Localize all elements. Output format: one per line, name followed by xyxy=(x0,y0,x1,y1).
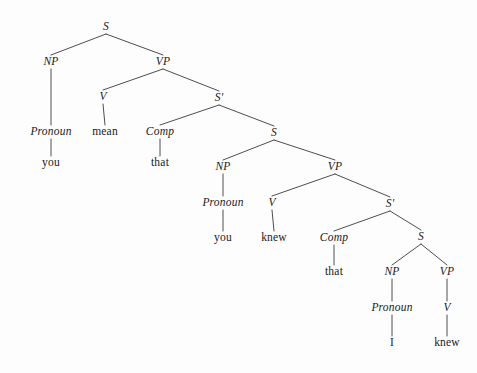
tree-node-category-v: V xyxy=(268,197,275,209)
tree-edges-layer xyxy=(0,0,477,373)
tree-edge xyxy=(103,104,105,125)
tree-node-category-vp: VP xyxy=(328,161,342,173)
tree-node-category-s: S xyxy=(103,21,109,33)
tree-edge xyxy=(421,244,447,265)
tree-node-category-comp: Comp xyxy=(146,126,174,138)
tree-node-word-you: you xyxy=(42,157,60,169)
tree-node-category-s: S xyxy=(418,231,424,243)
tree-edge xyxy=(163,69,219,91)
syntax-tree-figure: SNPVPPronounyouVmeanS'CompthatSNPVPProno… xyxy=(0,0,477,373)
tree-node-category-pronoun: Pronoun xyxy=(202,197,243,209)
tree-edge xyxy=(335,174,390,197)
tree-edge xyxy=(103,69,163,90)
tree-node-category-pronoun: Pronoun xyxy=(371,302,412,314)
tree-node-category-s: S xyxy=(271,127,277,139)
tree-node-category-comp: Comp xyxy=(320,232,348,244)
tree-node-category-np: NP xyxy=(215,161,230,173)
tree-node-category-s: S' xyxy=(215,92,224,104)
tree-node-word-that: that xyxy=(151,157,169,169)
tree-node-category-pronoun: Pronoun xyxy=(30,126,71,138)
tree-edge xyxy=(160,105,219,125)
tree-edge xyxy=(392,244,421,265)
tree-node-category-v: V xyxy=(99,91,106,103)
tree-edge xyxy=(223,140,274,160)
tree-node-category-s: S' xyxy=(386,198,395,210)
tree-edge xyxy=(219,105,274,126)
tree-edge xyxy=(390,211,421,230)
tree-edge xyxy=(334,211,390,231)
tree-node-word-i: I xyxy=(390,337,394,349)
tree-node-word-you: you xyxy=(214,232,232,244)
tree-edge xyxy=(106,34,163,55)
tree-node-category-v: V xyxy=(443,302,450,314)
tree-edge xyxy=(272,210,274,231)
tree-node-word-that: that xyxy=(325,266,343,278)
tree-edge xyxy=(274,140,335,160)
tree-edge xyxy=(272,174,335,196)
tree-node-word-mean: mean xyxy=(92,126,118,138)
tree-node-category-vp: VP xyxy=(156,56,170,68)
tree-node-word-knew: knew xyxy=(434,337,460,349)
tree-node-category-np: NP xyxy=(43,56,58,68)
tree-node-category-np: NP xyxy=(384,266,399,278)
tree-node-category-vp: VP xyxy=(440,266,454,278)
tree-edge xyxy=(51,34,106,55)
tree-node-word-knew: knew xyxy=(261,232,287,244)
